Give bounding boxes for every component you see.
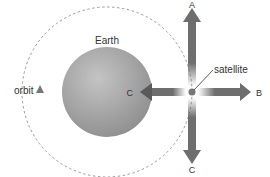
arrow-up-icon (183, 8, 201, 86)
earth-label: Earth (95, 35, 119, 46)
arrow-up-label: A (189, 0, 195, 10)
arrow-right-icon (198, 83, 251, 101)
arrow-left-label: C (127, 88, 134, 98)
orbit-diagram: Earth orbit satellite A B C C (0, 0, 270, 177)
earth (62, 47, 152, 137)
arrow-right-label: B (256, 88, 262, 98)
orbit-direction-arrow-icon (36, 85, 44, 93)
arrow-down-icon (183, 98, 201, 164)
satellite-label: satellite (214, 64, 248, 75)
satellite-leader-line (194, 70, 213, 90)
orbit-label: orbit (14, 85, 34, 96)
arrow-down-label: C (189, 165, 196, 175)
